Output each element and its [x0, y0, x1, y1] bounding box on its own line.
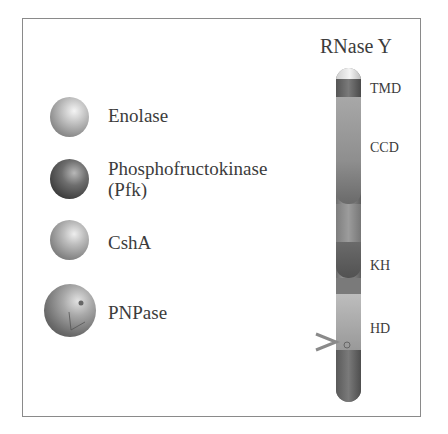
domain-kh [336, 242, 361, 278]
legend-label-pfk-abbrev: (Pfk) [108, 180, 147, 200]
rod-cap [336, 68, 361, 79]
domain-linker [336, 204, 361, 242]
active-site-marker-icon [314, 330, 354, 354]
pfk-sphere-icon [50, 159, 89, 199]
domain-tmd [336, 79, 361, 97]
domain-label-ccd: CCD [370, 140, 399, 156]
protein-title: RNase Y [320, 35, 392, 58]
legend-label-csha: CshA [108, 233, 151, 253]
figure-frame [22, 18, 421, 417]
domain-ccd [336, 97, 361, 204]
domain-label-hd: HD [370, 321, 390, 337]
legend-label-pnpase: PNPase [108, 303, 167, 323]
domain-label-kh: KH [370, 258, 390, 274]
csha-sphere-icon [50, 220, 89, 260]
legend-label-pfk: Phosphofructokinase [108, 159, 267, 179]
pnpase-detail-icon [44, 284, 96, 337]
pnpase-sphere-icon [44, 284, 96, 337]
legend-label-enolase: Enolase [108, 106, 168, 126]
enolase-sphere-icon [50, 97, 89, 137]
domain-linker-2 [336, 278, 361, 294]
domain-c-term [336, 350, 361, 402]
domain-label-tmd: TMD [370, 81, 401, 97]
